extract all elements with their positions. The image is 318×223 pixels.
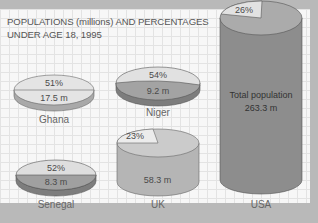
uk-label: UK [138, 199, 178, 210]
usa-percent: 26% [229, 5, 259, 15]
ghana-percent: 51% [34, 78, 74, 88]
ghana-label: Ghana [24, 114, 84, 125]
usa-label: USA [241, 199, 281, 210]
ghana-population: 17.5 m [34, 93, 74, 103]
senegal-percent: 52% [36, 163, 76, 173]
uk-population: 58.3 m [135, 175, 180, 185]
uk-percent: 23% [120, 131, 150, 141]
niger-population: 9.2 m [138, 86, 178, 96]
niger-label: Niger [128, 107, 188, 118]
usa-population-caption: Total population [222, 90, 300, 100]
senegal-label: Senegal [26, 199, 86, 210]
usa-population: 263.3 m [222, 103, 300, 113]
senegal-population: 8.3 m [36, 177, 76, 187]
chart-title: POPULATIONS (millions) AND PERCENTAGES U… [7, 15, 217, 41]
niger-percent: 54% [138, 70, 178, 80]
